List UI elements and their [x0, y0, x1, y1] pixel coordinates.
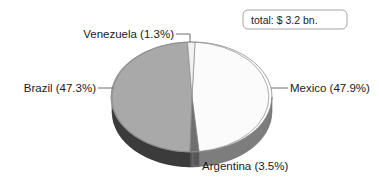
label-venezuela: Venezuela (1.3%) [83, 28, 174, 40]
total-annotation-box: total: $ 3.2 bn. [243, 10, 347, 29]
pie-chart-svg: Venezuela (1.3%) Brazil (47.3%) Mexico (… [0, 0, 379, 189]
label-brazil: Brazil (47.3%) [24, 82, 96, 94]
label-argentina: Argentina (3.5%) [202, 160, 288, 172]
label-mexico: Mexico (47.9%) [290, 82, 370, 94]
side-wall-argentina [190, 152, 199, 168]
total-box-label: total: $ 3.2 bn. [251, 14, 318, 26]
pie-chart-figure: Venezuela (1.3%) Brazil (47.3%) Mexico (… [0, 0, 379, 189]
